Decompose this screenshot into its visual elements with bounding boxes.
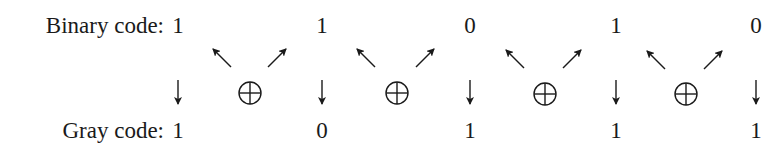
arrows-layer <box>0 0 778 157</box>
up-right-arrow-icon <box>704 51 722 69</box>
xor-icon <box>239 82 261 104</box>
xor-icon <box>386 82 408 104</box>
up-right-arrow-icon <box>268 49 286 67</box>
xor-icon <box>675 83 697 105</box>
up-right-arrow-icon <box>563 50 581 68</box>
up-left-arrow-icon <box>213 49 231 67</box>
up-right-arrow-icon <box>416 49 434 67</box>
up-left-arrow-icon <box>357 49 375 67</box>
xor-icon <box>534 83 556 105</box>
up-left-arrow-icon <box>506 50 524 68</box>
up-left-arrow-icon <box>647 51 665 69</box>
